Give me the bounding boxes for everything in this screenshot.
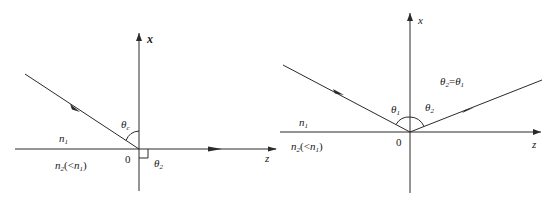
theta-c-label: θc: [121, 118, 130, 132]
medium-n1-label-right: n1: [299, 116, 308, 130]
z-axis-arrow-icon: [268, 147, 277, 152]
theta-2-label-right: θ2: [425, 101, 434, 115]
incident-ray-left: [25, 74, 139, 149]
medium-n2-label-left: n2(<n1): [55, 159, 87, 173]
reflected-arrow-icon: [462, 108, 474, 114]
origin-label-right: 0: [396, 136, 402, 148]
arrow-icon: [208, 147, 222, 152]
theta-c-arc: [126, 131, 139, 141]
medium-n1-label-left: n1: [59, 132, 68, 146]
right-angle-marker: [139, 149, 148, 158]
theta-2-label-left: θ2: [154, 157, 163, 171]
ray-arrow-icon: [70, 104, 80, 112]
medium-n2-label-right: n2(<n1): [291, 140, 323, 154]
origin-label-left: 0: [125, 153, 131, 165]
theta-1-label: θ1: [391, 103, 400, 117]
reflection-law-label: θ2=θ1: [440, 75, 464, 89]
figure-critical-angle: x z θc θ2 0 n1 n2(<n1): [15, 32, 277, 191]
x-axis-label-right: x: [417, 14, 423, 26]
theta-2-arc: [410, 117, 424, 127]
theta-1-arc: [396, 117, 410, 125]
z-axis-label-right: z: [531, 138, 537, 150]
figure-reflection: x z θ1 θ2 θ2=θ1 0 n1 n2(<n1): [280, 13, 542, 193]
x-axis-label-left: x: [146, 32, 153, 46]
optics-diagram: x z θc θ2 0 n1 n2(<n1) x z: [0, 0, 557, 206]
z-axis-label-left: z: [264, 152, 270, 164]
